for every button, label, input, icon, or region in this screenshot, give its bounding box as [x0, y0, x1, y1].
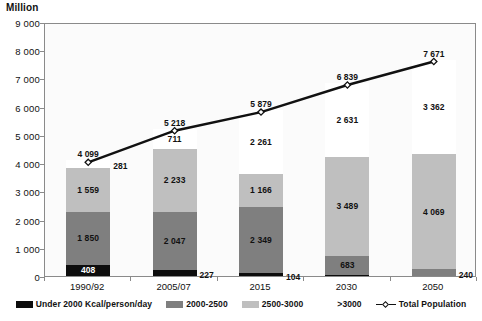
legend-item[interactable]: Under 2000 Kcal/person/day — [16, 299, 152, 309]
total-population-label: 5 218 — [164, 118, 185, 128]
x-axis-tick-label: 2015 — [249, 281, 270, 292]
total-population-label: 7 671 — [423, 49, 444, 59]
y-axis-title: Million — [6, 2, 38, 13]
y-axis-tick-label: 3 000 — [0, 187, 40, 198]
line-marker[interactable] — [431, 58, 437, 64]
x-axis-tick-label: 2030 — [336, 281, 357, 292]
legend-line-swatch — [376, 301, 396, 308]
x-axis-tick-mark — [130, 277, 131, 281]
legend-label: >3000 — [337, 299, 361, 309]
y-axis-tick-label: 9 000 — [0, 18, 40, 29]
plot-inner: 2814081 8501 5592272 0472 2337111042 349… — [45, 24, 475, 276]
total-population-label: 5 879 — [250, 99, 271, 109]
line-marker[interactable] — [85, 159, 91, 165]
y-axis-tick-label: 2 000 — [0, 215, 40, 226]
legend-label: Total Population — [399, 299, 467, 309]
y-axis-tick-label: 4 000 — [0, 159, 40, 170]
legend-item[interactable]: >3000 — [317, 299, 361, 309]
x-axis-tick-mark — [390, 277, 391, 281]
total-population-label: 6 839 — [337, 72, 358, 82]
x-axis-tick-label: 2005/07 — [156, 281, 190, 292]
legend-label: Under 2000 Kcal/person/day — [36, 299, 152, 309]
total-population-label: 4 099 — [78, 149, 99, 159]
legend-item[interactable]: 2500-3000 — [242, 299, 304, 309]
x-axis-tick-mark — [217, 277, 218, 281]
x-axis-tick-mark — [44, 277, 45, 281]
legend-item[interactable]: 2000-2500 — [166, 299, 228, 309]
legend-item[interactable]: Total Population — [376, 299, 467, 309]
x-axis-tick-mark — [303, 277, 304, 281]
total-population-line — [45, 24, 477, 278]
y-axis-tick-label: 6 000 — [0, 102, 40, 113]
legend-color-swatch — [166, 301, 183, 308]
legend-label: 2000-2500 — [186, 299, 228, 309]
y-axis-tick-label: 0 — [0, 272, 40, 283]
line-marker[interactable] — [171, 128, 177, 134]
y-axis-tick-label: 1 000 — [0, 243, 40, 254]
plot-area: 2814081 8501 5592272 0472 2337111042 349… — [44, 23, 476, 277]
line-marker[interactable] — [344, 82, 350, 88]
chart-legend: Under 2000 Kcal/person/day2000-25002500-… — [0, 292, 482, 316]
y-axis-tick-label: 5 000 — [0, 130, 40, 141]
y-axis-tick-label: 7 000 — [0, 74, 40, 85]
x-axis-tick-label: 1990/92 — [70, 281, 104, 292]
y-axis-tick-label: 8 000 — [0, 46, 40, 57]
legend-color-swatch — [242, 301, 259, 308]
legend-label: 2500-3000 — [262, 299, 304, 309]
x-axis-tick-mark — [476, 277, 477, 281]
x-axis-tick-label: 2050 — [422, 281, 443, 292]
legend-color-swatch — [317, 301, 334, 308]
legend-color-swatch — [16, 301, 33, 308]
stacked-bar-chart: Million 01 0002 0003 0004 0005 0006 0007… — [0, 0, 482, 321]
line-marker[interactable] — [258, 109, 264, 115]
